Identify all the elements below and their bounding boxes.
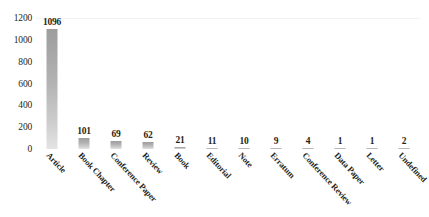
- bar-group: 101: [69, 18, 99, 149]
- x-axis-tick-label: Book: [172, 151, 191, 171]
- x-axis-tick: Data Paper: [325, 149, 355, 217]
- bar-value-label: 101: [77, 126, 91, 136]
- bar-group: 11: [197, 18, 227, 149]
- bar-value-label: 9: [274, 136, 279, 146]
- y-axis: 020040060080010001200: [0, 18, 34, 149]
- bar-value-label: 1096: [43, 17, 61, 27]
- bar-group: 10: [229, 18, 259, 149]
- x-axis-tick: Review: [133, 149, 163, 217]
- x-axis-tick-label: Letter: [364, 151, 386, 173]
- x-axis-tick: Book: [165, 149, 195, 217]
- bar-value-label: 21: [175, 135, 184, 145]
- bar-value-label: 69: [111, 129, 120, 139]
- y-axis-tick-label: 0: [0, 144, 32, 154]
- bar-group: 21: [165, 18, 195, 149]
- x-axis-tick-label: Article: [44, 151, 67, 175]
- bar-group: 62: [133, 18, 163, 149]
- bar-value-label: 10: [239, 136, 248, 146]
- x-axis-tick: Erratum: [261, 149, 291, 217]
- bar-group: 2: [389, 18, 419, 149]
- y-axis-tick-label: 400: [0, 100, 32, 110]
- bar-value-label: 1: [370, 136, 375, 146]
- x-axis: ArticleBook ChapterConference PaperRevie…: [36, 149, 420, 217]
- x-axis-tick-label: Review: [140, 151, 164, 176]
- bar-group: 1096: [37, 18, 67, 149]
- bar-value-label: 62: [143, 130, 152, 140]
- x-axis-tick: Undefined: [389, 149, 419, 217]
- bar-group: 1: [325, 18, 355, 149]
- bar-value-label: 4: [306, 136, 311, 146]
- bar: [47, 29, 58, 149]
- x-axis-tick: Article: [37, 149, 67, 217]
- x-axis-tick: Book Chapter: [69, 149, 99, 217]
- bar-group: 69: [101, 18, 131, 149]
- plot-area: 1096101696221111094112: [36, 18, 420, 149]
- bar-value-label: 2: [402, 136, 407, 146]
- y-axis-tick-label: 600: [0, 79, 32, 89]
- y-axis-tick-label: 800: [0, 57, 32, 67]
- y-axis-tick-label: 1000: [0, 35, 32, 45]
- x-axis-tick: Conference Review: [293, 149, 323, 217]
- x-axis-tick: Editorial: [197, 149, 227, 217]
- y-axis-tick-label: 200: [0, 122, 32, 132]
- bar-value-label: 1: [338, 136, 343, 146]
- x-axis-tick-label: Undefined: [396, 151, 428, 184]
- x-axis-tick-label: Note: [236, 151, 254, 169]
- bar: [79, 138, 90, 149]
- y-axis-tick-label: 1200: [0, 13, 32, 23]
- x-axis-tick: Conference Paper: [101, 149, 131, 217]
- bar-group: 4: [293, 18, 323, 149]
- bar-group: 1: [357, 18, 387, 149]
- x-axis-tick: Note: [229, 149, 259, 217]
- bar-value-label: 11: [208, 136, 217, 146]
- bar: [143, 142, 154, 149]
- x-axis-tick: Letter: [357, 149, 387, 217]
- bar-group: 9: [261, 18, 291, 149]
- bar: [111, 141, 122, 149]
